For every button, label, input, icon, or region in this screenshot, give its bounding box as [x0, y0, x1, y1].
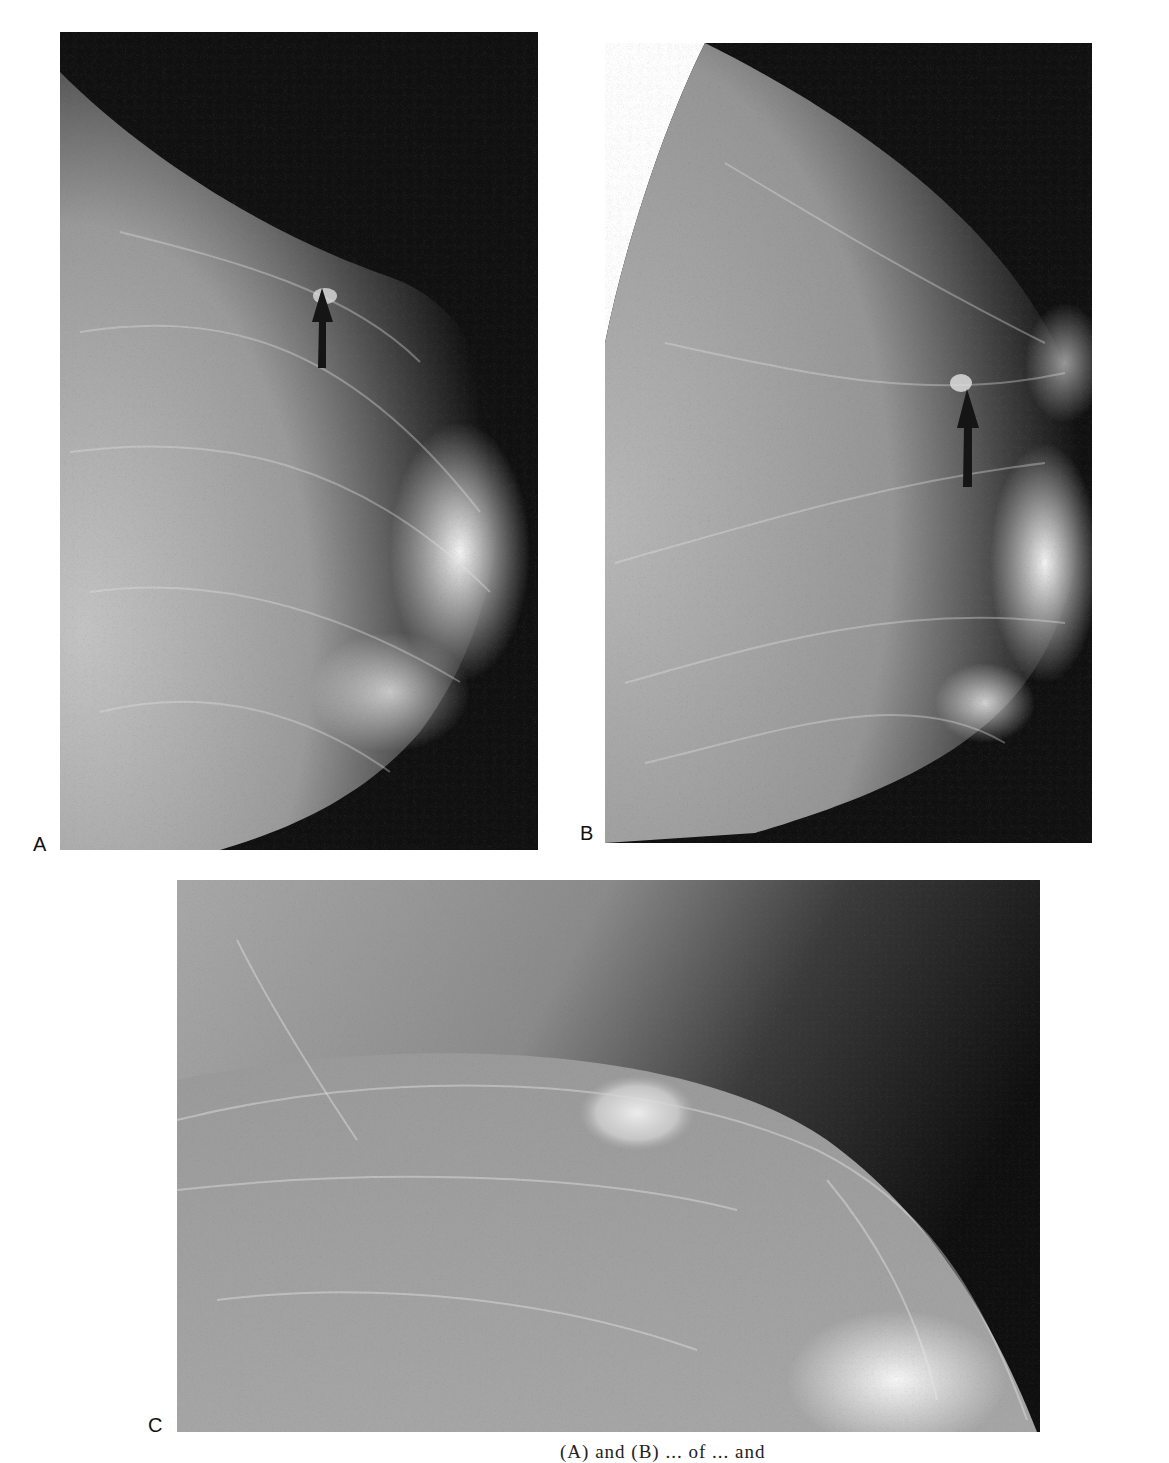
lesion-b [950, 374, 972, 392]
panel-c-spot-view [177, 880, 1040, 1432]
panel-a-mammogram [60, 32, 538, 850]
mammogram-image-a [60, 32, 538, 850]
panel-b-mammogram [605, 43, 1092, 843]
figure-caption-partial: (A) and (B) ... of ... and [560, 1441, 1169, 1463]
mammogram-image-c [177, 880, 1040, 1432]
mammogram-image-b [605, 43, 1092, 843]
lesion-c [579, 1075, 695, 1151]
panel-label-b: B [580, 823, 593, 843]
panel-label-a: A [33, 834, 46, 854]
panel-label-c: C [148, 1415, 162, 1435]
